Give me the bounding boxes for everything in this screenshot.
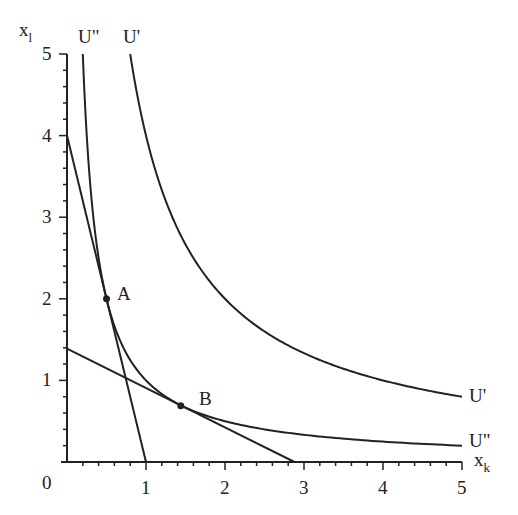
curves <box>67 54 462 462</box>
x-tick-label: 5 <box>457 478 467 497</box>
point-b <box>177 402 184 409</box>
y-axis-label: xl <box>19 20 32 39</box>
indifference-curve-u2 <box>83 54 462 446</box>
origin-label: 0 <box>42 473 52 492</box>
x-axis-label-sub: k <box>484 460 491 475</box>
indifference-curve-u1 <box>130 54 462 397</box>
x-tick-label: 3 <box>299 478 309 497</box>
point-a <box>103 295 110 302</box>
chart-canvas <box>0 0 518 515</box>
point-label-b: B <box>199 389 212 408</box>
x-axis-label-main: x <box>474 449 484 470</box>
y-tick-label: 1 <box>42 370 52 389</box>
y-tick-label: 4 <box>42 126 52 145</box>
x-tick-label: 1 <box>141 478 151 497</box>
axes <box>59 54 462 470</box>
curve-label-u1-right: U' <box>469 386 486 405</box>
y-axis-label-main: x <box>19 19 29 40</box>
y-tick-label: 2 <box>42 289 52 308</box>
points <box>103 295 184 409</box>
point-label-a: A <box>117 284 131 303</box>
y-tick-label: 5 <box>42 44 52 63</box>
curve-label-u2-right: U" <box>469 431 490 450</box>
curve-label-u1-top: U' <box>123 27 140 46</box>
y-tick-label: 3 <box>42 207 52 226</box>
x-tick-label: 4 <box>378 478 388 497</box>
y-axis-label-sub: l <box>29 30 33 45</box>
x-tick-label: 2 <box>220 478 230 497</box>
x-axis-label: xk <box>474 450 490 469</box>
curve-label-u2-top: U" <box>78 27 99 46</box>
